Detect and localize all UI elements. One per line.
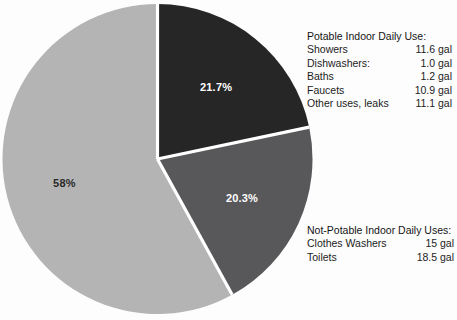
legend-item-value: 1.0 gal <box>420 57 452 70</box>
legend-potable-title: Potable Indoor Daily Use: <box>307 30 452 43</box>
legend-item-name: Clothes Washers <box>307 237 395 250</box>
legend-item-name: Other uses, leaks <box>307 97 397 110</box>
pie-chart-figure: 21.7%20.3%58% Potable Indoor Daily Use: … <box>0 0 457 320</box>
legend-row-potable: Showers11.6 gal <box>307 43 452 56</box>
legend-row-potable: Other uses, leaks11.1 gal <box>307 97 452 110</box>
legend-item-name: Toilets <box>307 251 345 264</box>
legend-potable-rows: Showers11.6 galDishwashers:1.0 galBaths1… <box>307 43 452 110</box>
pie-chart-graphic: 21.7%20.3%58% <box>0 0 315 320</box>
legend-item-value: 11.6 gal <box>415 43 452 56</box>
legend-item-name: Showers <box>307 43 356 56</box>
legend-not-potable-rows: Clothes Washers15 galToilets18.5 gal <box>307 237 454 264</box>
pie-slice-value-label: 21.7% <box>200 81 232 93</box>
legend-row-potable: Baths1.2 gal <box>307 70 452 83</box>
legend-row-potable: Faucets10.9 gal <box>307 84 452 97</box>
pie-slice-value-label: 58% <box>53 177 76 189</box>
legend-potable-indoor-use: Potable Indoor Daily Use: Showers11.6 ga… <box>307 30 452 110</box>
legend-item-value: 10.9 gal <box>415 84 452 97</box>
legend-item-value: 15 gal <box>425 237 454 250</box>
legend-item-name: Dishwashers: <box>307 57 378 70</box>
pie-slice-value-label: 20.3% <box>226 192 258 204</box>
legend-row-potable: Dishwashers:1.0 gal <box>307 57 452 70</box>
pie-svg: 21.7%20.3%58% <box>0 0 315 320</box>
legend-item-name: Faucets <box>307 84 352 97</box>
legend-row-not-potable: Clothes Washers15 gal <box>307 237 454 250</box>
legend-not-potable-title: Not-Potable Indoor Daily Uses: <box>307 224 454 237</box>
legend-not-potable-indoor-use: Not-Potable Indoor Daily Uses: Clothes W… <box>307 224 454 264</box>
legend-item-name: Baths <box>307 70 342 83</box>
legend-item-value: 11.1 gal <box>415 97 452 110</box>
legend-item-value: 1.2 gal <box>420 70 452 83</box>
legend-item-value: 18.5 gal <box>417 251 454 264</box>
legend-row-not-potable: Toilets18.5 gal <box>307 251 454 264</box>
